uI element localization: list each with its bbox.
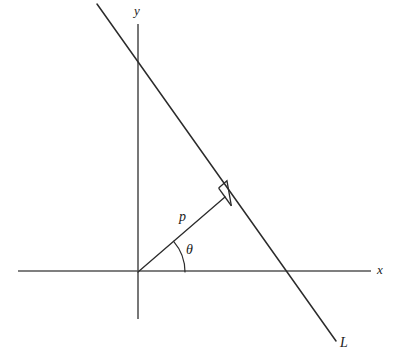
normal-length-label-p: p — [179, 210, 186, 224]
x-axis-label: x — [377, 263, 383, 276]
angle-label-theta: θ — [186, 243, 193, 257]
diagram-svg — [0, 0, 395, 362]
y-axis-label: y — [134, 4, 140, 17]
line-label-L: L — [340, 336, 348, 350]
line-L — [97, 4, 336, 341]
angle-arc-theta — [174, 241, 185, 272]
geometry-diagram-canvas: x y p θ L — [0, 0, 395, 362]
